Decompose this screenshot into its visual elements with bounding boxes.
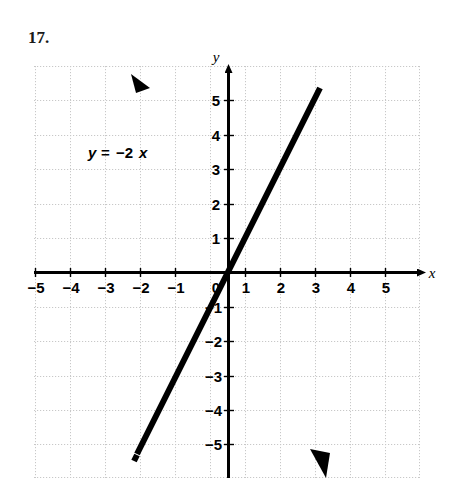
x-tick-label: 4 — [347, 279, 356, 296]
y-tick-label: 4 — [212, 127, 221, 144]
graph-svg: y x −5 −4 −3 −2 −1 0 1 2 3 4 5 5 4 3 — [0, 0, 451, 503]
x-tick-label-origin: 0 — [212, 279, 220, 296]
x-tick-label: −2 — [132, 279, 149, 296]
x-tick-label: −5 — [27, 279, 44, 296]
y-tick-label: −5 — [205, 436, 222, 453]
plot-line-tail — [134, 455, 137, 461]
x-tick-label: −1 — [167, 279, 184, 296]
x-tick-label: 5 — [382, 279, 390, 296]
y-tick-label: −1 — [205, 299, 222, 316]
equation-operator: = — [101, 144, 110, 161]
x-tick-label: 1 — [242, 279, 250, 296]
x-tick-label: −3 — [97, 279, 114, 296]
equation-coefficient: −2 — [116, 144, 133, 161]
y-tick-label: 5 — [212, 92, 220, 109]
y-tick-label: −3 — [205, 368, 222, 385]
x-tick-label: −4 — [62, 279, 80, 296]
x-tick-label: 2 — [277, 279, 285, 296]
y-tick-label: 2 — [212, 196, 220, 213]
x-tick-label: 3 — [312, 279, 320, 296]
y-tick-label: 3 — [212, 161, 220, 178]
x-axis-label: x — [428, 265, 436, 281]
y-tick-label: −4 — [205, 402, 223, 419]
equation-lhs: y — [87, 144, 97, 161]
worksheet-page: 17. — [0, 0, 451, 503]
y-tick-label: −2 — [205, 333, 222, 350]
y-axis-label: y — [211, 49, 220, 65]
equation-variable: x — [138, 144, 148, 161]
equation-annotation: y = −2 x — [87, 144, 148, 161]
y-tick-label: 1 — [212, 230, 220, 247]
coordinate-graph: y x −5 −4 −3 −2 −1 0 1 2 3 4 5 5 4 3 — [0, 0, 451, 503]
